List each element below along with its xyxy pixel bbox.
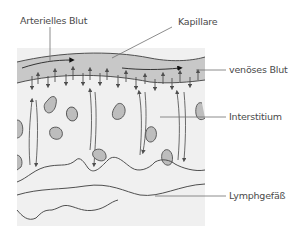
label-interstitium: Interstitium [229, 111, 282, 122]
capillary-exchange-diagram: Arterielles Blut Kapillare venöses Blut … [0, 0, 300, 237]
label-lymph-vessel: Lymphgefäß [229, 190, 285, 201]
label-arterial-blood: Arterielles Blut [20, 15, 87, 26]
label-venous-blood: venöses Blut [229, 64, 288, 75]
label-capillary: Kapillare [178, 16, 217, 27]
